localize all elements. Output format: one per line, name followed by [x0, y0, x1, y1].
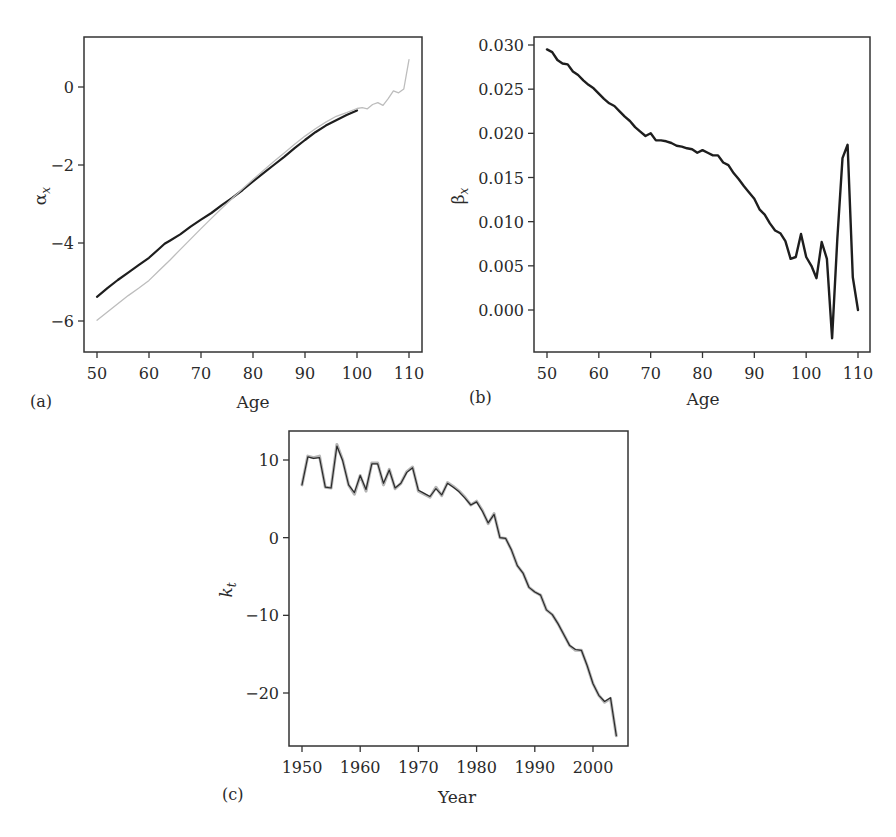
- panel-c-y-axis-title: kt: [216, 582, 239, 597]
- panel-c-x-axis-title: Year: [437, 787, 477, 807]
- x-tick-label: 90: [744, 364, 764, 383]
- panel-b-x-axis: 5060708090100110: [537, 352, 873, 383]
- x-tick-label: 1980: [456, 758, 497, 777]
- panel-c-label: (c): [222, 785, 243, 804]
- panel-a-x-axis-title: Age: [235, 392, 269, 412]
- y-tick-label: 0.005: [478, 257, 524, 276]
- y-tick-label: 0.025: [478, 80, 524, 99]
- panel-a-lines: [97, 60, 409, 321]
- panel-c-kt-chart: 195019601970198019902000 100−10−20 Year …: [216, 431, 628, 807]
- panel-a-series-1: [97, 60, 409, 321]
- panel-c-series-0: [302, 445, 616, 736]
- panel-b-series-0: [547, 49, 858, 338]
- panel-a-alpha-chart: 5060708090100110 0−2−4−6 Age αx (a): [30, 37, 424, 412]
- panel-b-x-axis-title: Age: [685, 389, 719, 409]
- x-tick-label: 100: [342, 364, 373, 383]
- x-tick-label: 2000: [573, 758, 614, 777]
- x-tick-label: 1950: [282, 758, 323, 777]
- panel-c-frame: [289, 431, 628, 746]
- x-tick-label: 50: [87, 364, 107, 383]
- x-tick-label: 80: [243, 364, 263, 383]
- y-tick-label: −10: [245, 606, 279, 625]
- panel-c-y-axis: 100−10−20: [245, 451, 289, 703]
- x-tick-label: 80: [692, 364, 712, 383]
- panel-b-label: (b): [469, 388, 492, 407]
- panel-b-beta-chart: 5060708090100110 0.0300.0250.0200.0150.0…: [448, 36, 873, 409]
- x-tick-label: 1970: [398, 758, 439, 777]
- y-tick-label: 0.030: [478, 36, 524, 55]
- y-tick-label: −20: [245, 684, 279, 703]
- x-tick-label: 110: [843, 364, 874, 383]
- y-tick-label: 0.000: [478, 301, 524, 320]
- y-tick-label: 0: [269, 529, 279, 548]
- y-tick-label: 10: [259, 451, 279, 470]
- panel-a-frame: [84, 37, 422, 352]
- x-tick-label: 110: [394, 364, 425, 383]
- panel-a-y-axis-title: αx: [30, 187, 53, 205]
- panel-a-label: (a): [30, 392, 52, 411]
- x-tick-label: 70: [191, 364, 211, 383]
- y-tick-label: 0.015: [478, 169, 524, 188]
- panel-b-frame: [534, 37, 870, 352]
- y-tick-label: 0.010: [478, 213, 524, 232]
- y-tick-label: −6: [50, 312, 74, 331]
- y-tick-label: 0.020: [478, 124, 524, 143]
- panel-c-x-axis: 195019601970198019902000: [282, 746, 614, 777]
- panel-c-lines: [302, 445, 616, 736]
- x-tick-label: 90: [295, 364, 315, 383]
- x-tick-label: 70: [640, 364, 660, 383]
- y-tick-label: −2: [50, 156, 74, 175]
- figure-canvas: 5060708090100110 0−2−4−6 Age αx (a) 5060…: [0, 0, 896, 837]
- panel-a-y-axis: 0−2−4−6: [50, 78, 84, 331]
- x-tick-label: 1990: [514, 758, 555, 777]
- panel-b-y-axis-title: βx: [448, 187, 471, 204]
- x-tick-label: 60: [139, 364, 159, 383]
- panel-b-y-axis: 0.0300.0250.0200.0150.0100.0050.000: [478, 36, 534, 320]
- panel-a-x-axis: 5060708090100110: [87, 352, 424, 383]
- x-tick-label: 1960: [340, 758, 381, 777]
- y-tick-label: 0: [64, 78, 74, 97]
- x-tick-label: 100: [791, 364, 822, 383]
- panel-b-lines: [547, 49, 858, 338]
- y-tick-label: −4: [50, 234, 74, 253]
- x-tick-label: 50: [537, 364, 557, 383]
- x-tick-label: 60: [589, 364, 609, 383]
